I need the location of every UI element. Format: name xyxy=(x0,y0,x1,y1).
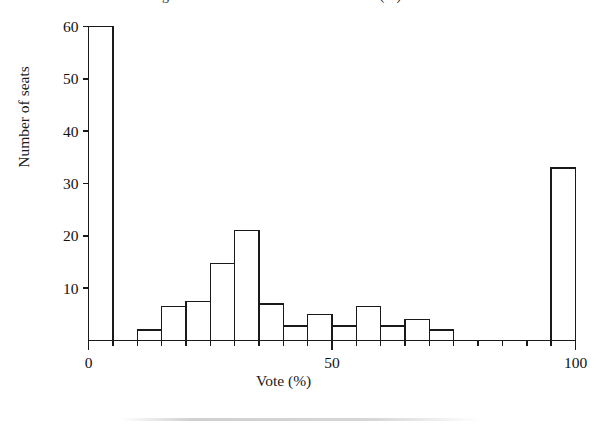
y-axis-label: Number of seats xyxy=(15,37,33,197)
y-axis-tick-label: 10 xyxy=(63,280,79,297)
histogram-bar xyxy=(356,306,380,340)
histogram-bar xyxy=(186,301,210,340)
histogram-bar xyxy=(89,27,113,341)
y-axis-tick-label: 40 xyxy=(63,123,79,140)
x-axis-label: Vote (%) xyxy=(256,372,311,390)
bars-group xyxy=(89,27,576,341)
y-axis-tick-label: 60 xyxy=(63,18,79,35)
axes-group xyxy=(89,27,576,341)
histogram-bar xyxy=(210,264,234,341)
scan-artifact xyxy=(120,418,480,421)
x-axis-tick-label: 100 xyxy=(564,354,588,371)
histogram-bar xyxy=(162,306,186,340)
y-axis-tick-label: 30 xyxy=(63,175,79,192)
histogram-bar xyxy=(429,330,453,340)
plot-area: 102030405060050100 Number of seats Vote … xyxy=(0,0,604,426)
x-axis-tick-label: 0 xyxy=(85,354,93,371)
figure-bottom-strip xyxy=(0,416,604,426)
histogram-bar xyxy=(308,314,332,340)
histogram-bar xyxy=(137,330,161,340)
x-axis-tick-label: 50 xyxy=(324,354,340,371)
histogram-bar xyxy=(235,231,259,341)
histogram-svg: 102030405060050100 xyxy=(0,0,604,426)
histogram-bar xyxy=(283,326,307,341)
histogram-bar xyxy=(381,326,405,341)
y-axis-tick-label: 50 xyxy=(63,70,79,87)
figure-container: Figure 1. Distribution of the vote share… xyxy=(0,0,604,426)
histogram-bar xyxy=(405,320,429,341)
y-axis-tick-label: 20 xyxy=(63,227,79,244)
ticks-group xyxy=(83,27,576,350)
histogram-bar xyxy=(332,326,356,341)
histogram-bar xyxy=(551,168,575,341)
histogram-bar xyxy=(259,304,283,341)
